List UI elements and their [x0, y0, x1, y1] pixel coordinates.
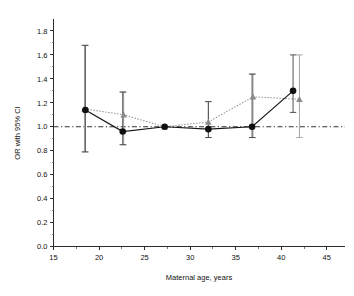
error-bar-triangle: [120, 92, 126, 145]
x-tick-label: 25: [140, 253, 148, 262]
x-tick-label: 30: [186, 253, 194, 262]
y-tick-label: 0.4: [37, 194, 47, 203]
y-tick-label: 1.4: [37, 75, 47, 84]
y-tick-label: 1.2: [37, 99, 47, 108]
y-tick-group: 0.00.20.40.60.81.01.21.41.61.8: [37, 27, 53, 252]
x-tick-label: 45: [323, 253, 331, 262]
y-tick-label: 0.2: [37, 218, 47, 227]
y-tick-label: 0.8: [37, 146, 47, 155]
data-point-circle: [82, 107, 89, 114]
error-bar-circle: [290, 55, 296, 112]
x-tick-label: 35: [232, 253, 240, 262]
data-point-triangle: [296, 96, 303, 102]
error-bar-circle: [82, 45, 88, 152]
x-tick-label: 20: [95, 253, 103, 262]
y-axis-title: OR with 95% CI: [13, 106, 22, 159]
data-point-circle: [119, 128, 126, 135]
data-point-triangle: [205, 119, 212, 125]
axes-group: [54, 19, 346, 247]
chart-container: 0.00.20.40.60.81.01.21.41.61.8 152025303…: [0, 0, 354, 296]
y-tick-label: 0.6: [37, 170, 47, 179]
x-tick-label: 15: [49, 253, 57, 262]
data-point-circle: [205, 126, 212, 133]
or-forest-scatter-plot: 0.00.20.40.60.81.01.21.41.61.8 152025303…: [0, 0, 354, 296]
error-bar-circle: [120, 92, 126, 145]
y-tick-label: 1.8: [37, 27, 47, 36]
data-point-circle: [290, 88, 297, 95]
series-lines-group: [84, 91, 299, 132]
x-tick-group: 15202530354045: [49, 247, 331, 262]
data-point-circle: [161, 123, 168, 130]
data-point-circle: [249, 123, 256, 130]
y-tick-label: 1.6: [37, 51, 47, 60]
data-point-triangle: [250, 94, 257, 100]
error-bars-group: [81, 45, 302, 152]
error-bar-triangle: [81, 45, 87, 152]
y-tick-label: 1.0: [37, 122, 47, 131]
x-axis-title: Maternal age, years: [166, 273, 233, 282]
series-connector-triangle: [84, 97, 299, 127]
y-tick-label: 0.0: [37, 242, 47, 251]
x-tick-label: 40: [277, 253, 285, 262]
